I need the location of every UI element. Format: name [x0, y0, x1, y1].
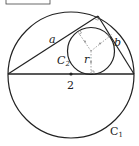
- label-r: r: [84, 53, 90, 66]
- geometry-diagram: a b C2 r 2 C1: [0, 0, 139, 146]
- label-box: [6, 0, 50, 4]
- label-c1: C1: [110, 125, 123, 139]
- label-b: b: [114, 36, 121, 49]
- label-center-value: 2: [67, 79, 74, 92]
- radius-lines: [78, 32, 110, 74]
- center-point: [69, 72, 72, 75]
- label-a: a: [49, 33, 56, 46]
